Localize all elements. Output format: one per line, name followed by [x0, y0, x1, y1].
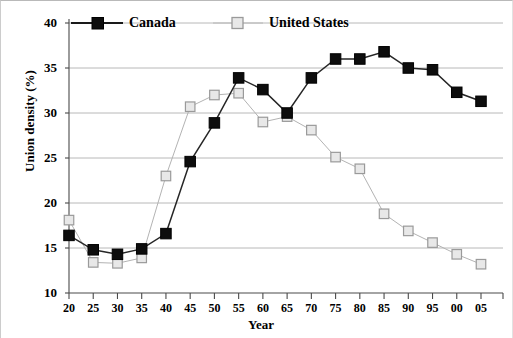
- data-point: [379, 47, 390, 58]
- x-axis-tick-label: 80: [348, 302, 372, 314]
- data-point: [233, 73, 244, 84]
- x-axis-tick-label: 35: [130, 302, 154, 314]
- data-point: [234, 88, 244, 98]
- data-point: [306, 73, 317, 84]
- data-point: [452, 87, 463, 98]
- x-axis-tick-label: 75: [324, 302, 348, 314]
- y-axis-tick-label: 10: [31, 286, 57, 299]
- data-point: [355, 54, 366, 65]
- y-axis-tick-label: 15: [31, 241, 57, 254]
- x-axis-tick-label: 60: [251, 302, 275, 314]
- data-point: [88, 258, 98, 268]
- data-point: [88, 245, 99, 256]
- data-point: [403, 63, 414, 74]
- series-canada: [64, 47, 487, 260]
- y-axis-tick-label: 20: [31, 196, 57, 209]
- legend-label-united-states: United States: [269, 15, 349, 31]
- data-point: [404, 226, 414, 236]
- data-point: [64, 215, 74, 225]
- x-axis-tick-label: 30: [105, 302, 129, 314]
- y-axis-tick-label: 25: [31, 151, 57, 164]
- data-point: [258, 84, 269, 95]
- x-axis-tick-label: 65: [275, 302, 299, 314]
- data-point: [330, 54, 341, 65]
- data-point: [185, 102, 195, 112]
- plot-area: [1, 1, 513, 338]
- data-point: [209, 118, 220, 128]
- data-point: [258, 117, 268, 127]
- gridlines: [69, 23, 503, 248]
- legend-label-canada: Canada: [129, 15, 176, 31]
- x-axis-tick-label: 20: [57, 302, 81, 314]
- data-point: [355, 164, 365, 174]
- data-point: [210, 90, 220, 100]
- data-point: [282, 108, 293, 119]
- y-axis-tick-label: 40: [31, 16, 57, 29]
- data-point: [427, 65, 438, 76]
- x-axis-tick-label: 05: [469, 302, 493, 314]
- x-axis-tick-label: 40: [154, 302, 178, 314]
- axis-lines: [69, 19, 503, 293]
- x-axis-tick-label: 00: [445, 302, 469, 314]
- union-density-line-chart: Union density (%) Year Canada United Sta…: [1, 1, 513, 338]
- x-axis-tick-label: 85: [372, 302, 396, 314]
- data-point: [161, 228, 172, 239]
- data-point: [136, 244, 147, 255]
- x-axis-tick-label: 90: [396, 302, 420, 314]
- series-united-states: [64, 88, 486, 269]
- data-point: [64, 230, 75, 241]
- x-axis-tick-label: 50: [202, 302, 226, 314]
- y-axis-tick-label: 30: [31, 106, 57, 119]
- data-point: [112, 249, 123, 259]
- data-point: [452, 250, 462, 259]
- data-point: [161, 171, 171, 181]
- x-axis-tick-label: 25: [81, 302, 105, 314]
- data-point: [331, 152, 341, 162]
- data-point: [307, 125, 317, 135]
- x-axis-tick-label: 70: [299, 302, 323, 314]
- y-axis-tick-label: 35: [31, 61, 57, 74]
- data-point: [185, 156, 196, 167]
- data-point: [428, 238, 438, 248]
- x-axis-title: Year: [191, 317, 331, 333]
- data-point: [379, 209, 389, 219]
- data-point: [476, 96, 487, 107]
- x-axis-tick-label: 45: [178, 302, 202, 314]
- x-axis-tick-label: 55: [227, 302, 251, 314]
- data-point: [476, 259, 486, 269]
- chart-figure-frame: Union density (%) Year Canada United Sta…: [0, 0, 513, 338]
- x-axis-tick-label: 95: [421, 302, 445, 314]
